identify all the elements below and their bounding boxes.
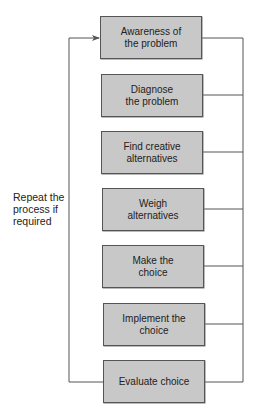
step-label: Make the choice	[132, 255, 173, 279]
step-label: Awareness of the problem	[121, 26, 181, 50]
step-label: Find creative alternatives	[123, 141, 180, 165]
step-awareness-box: Awareness of the problem	[100, 16, 202, 59]
step-implement-choice-box: Implement the choice	[103, 303, 205, 346]
repeat-process-label: Repeat the process if required	[13, 191, 67, 227]
step-label: Diagnose the problem	[126, 84, 179, 108]
step-label: Weigh alternatives	[127, 198, 178, 222]
step-diagnose-box: Diagnose the problem	[101, 74, 203, 117]
decision-process-diagram: Awareness of the problem Diagnose the pr…	[0, 0, 256, 416]
step-find-alternatives-box: Find creative alternatives	[101, 131, 203, 174]
step-label: Implement the choice	[122, 313, 185, 337]
step-weigh-alternatives-box: Weigh alternatives	[102, 188, 204, 231]
step-evaluate-choice-box: Evaluate choice	[103, 360, 205, 403]
step-label: Evaluate choice	[119, 376, 190, 388]
step-make-choice-box: Make the choice	[102, 245, 204, 288]
feedback-loop-line	[69, 38, 103, 382]
